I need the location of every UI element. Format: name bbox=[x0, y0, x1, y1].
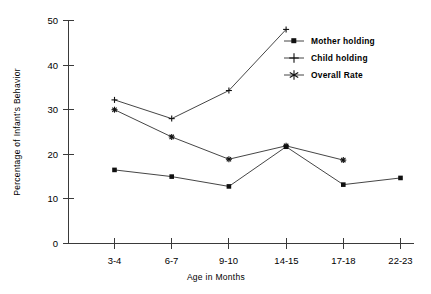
legend-key-overall-rate bbox=[284, 70, 304, 80]
legend-key-mother-holding bbox=[284, 38, 304, 43]
data-point-marker bbox=[398, 176, 403, 181]
chart-canvas: 0 10 20 30 40 50 3-4 6-7 9-10 14-15 17-1… bbox=[0, 0, 431, 294]
data-point-marker bbox=[169, 134, 175, 140]
legend-label-overall-rate: Overall Rate bbox=[311, 70, 363, 80]
data-point-marker bbox=[340, 157, 346, 163]
series-line-overall-rate bbox=[115, 110, 344, 160]
y-tick-label-0: 0 bbox=[53, 238, 58, 249]
x-tick-label-2: 9-10 bbox=[219, 255, 238, 266]
series-line-child-holding bbox=[115, 29, 287, 118]
x-tick-label-0: 3-4 bbox=[108, 255, 122, 266]
data-point-marker bbox=[112, 97, 118, 103]
data-point-marker bbox=[341, 182, 346, 187]
x-tick-label-5: 22-23 bbox=[388, 255, 412, 266]
y-tick-label-50: 50 bbox=[47, 15, 58, 26]
x-tick-label-1: 6-7 bbox=[165, 255, 179, 266]
x-tick-label-4: 17-18 bbox=[331, 255, 355, 266]
legend: Mother holding Child holding Overal bbox=[284, 36, 375, 80]
data-point-marker bbox=[283, 143, 289, 149]
y-axis-title: Percentage of Infant's Behavior bbox=[12, 68, 22, 196]
y-tick-label-20: 20 bbox=[47, 149, 58, 160]
legend-label-mother-holding: Mother holding bbox=[311, 36, 375, 46]
data-point-marker bbox=[169, 174, 174, 179]
data-point-marker bbox=[169, 116, 175, 122]
data-point-marker bbox=[112, 168, 117, 173]
legend-key-child-holding bbox=[284, 53, 304, 63]
data-point-marker bbox=[112, 107, 118, 113]
square-marker-icon bbox=[291, 38, 296, 43]
x-axis-title: Age in Months bbox=[187, 272, 245, 282]
line-chart: 0 10 20 30 40 50 3-4 6-7 9-10 14-15 17-1… bbox=[0, 0, 431, 294]
series-group bbox=[112, 26, 403, 188]
legend-label-child-holding: Child holding bbox=[311, 53, 368, 63]
x-tick-label-3: 14-15 bbox=[274, 255, 298, 266]
data-point-marker bbox=[226, 156, 232, 162]
series-markers-overall-rate bbox=[112, 107, 347, 163]
y-tick-label-30: 30 bbox=[47, 104, 58, 115]
y-tick-label-10: 10 bbox=[47, 193, 58, 204]
y-tick-label-40: 40 bbox=[47, 60, 58, 71]
data-point-marker bbox=[227, 184, 232, 189]
plus-marker-icon bbox=[289, 53, 299, 63]
